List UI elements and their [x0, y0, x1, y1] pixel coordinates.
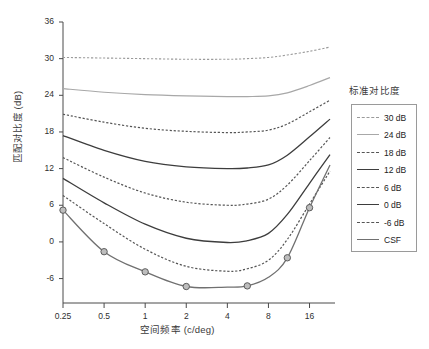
series-marker: [101, 248, 107, 254]
legend-item[interactable]: 0 dB: [352, 197, 418, 214]
x-tick-label: 4: [212, 311, 242, 321]
series-marker: [244, 283, 250, 289]
x-tick-label: 16: [295, 311, 325, 321]
legend-item[interactable]: 24 dB: [352, 127, 418, 144]
y-tick-label: 30: [30, 53, 54, 63]
legend-item[interactable]: 12 dB: [352, 162, 418, 179]
series-line: [63, 119, 330, 169]
series-line: [63, 137, 330, 205]
x-tick-label: 2: [171, 311, 201, 321]
series-line: [63, 100, 330, 132]
x-tick-label: 0.25: [48, 311, 78, 321]
y-tick-label: 24: [30, 89, 54, 99]
legend-label: 6 dB: [384, 183, 402, 193]
series-line: [63, 78, 330, 97]
legend-swatch: [357, 200, 379, 210]
series-marker: [284, 255, 290, 261]
y-tick-label: 6: [30, 199, 54, 209]
legend-item[interactable]: CSF: [352, 232, 418, 249]
legend-swatch: [357, 165, 379, 175]
legend-label: 12 dB: [384, 165, 406, 175]
legend-swatch: [357, 218, 379, 228]
series-marker: [60, 207, 66, 213]
legend-swatch: [357, 130, 379, 140]
x-tick-label: 8: [253, 311, 283, 321]
legend-label: 18 dB: [384, 148, 406, 158]
chart-figure: 匹配对比度 (dB) 空间频率 (c/deg) 363024181260-6 0…: [0, 0, 429, 349]
legend-item[interactable]: 6 dB: [352, 179, 418, 196]
legend-swatch: [357, 113, 379, 123]
legend-swatch: [357, 148, 379, 158]
y-tick-label: 18: [30, 126, 54, 136]
legend-swatch: [357, 183, 379, 193]
y-axis-label: 匹配对比度 (dB): [10, 62, 24, 192]
series-marker: [183, 283, 189, 289]
y-tick-label: 12: [30, 163, 54, 173]
y-tick-label: 0: [30, 236, 54, 246]
y-tick-label: 36: [30, 16, 54, 26]
legend-label: 24 dB: [384, 130, 406, 140]
legend-box: 30 dB24 dB18 dB12 dB6 dB0 dB-6 dBCSF: [351, 104, 417, 252]
series-line: [63, 47, 330, 59]
legend-label: 30 dB: [384, 113, 406, 123]
x-axis-label: 空间频率 (c/deg): [140, 322, 215, 336]
x-tick-label: 1: [130, 311, 160, 321]
legend-swatch: [357, 235, 379, 245]
series-marker: [306, 205, 312, 211]
legend-label: CSF: [384, 235, 401, 245]
legend-label: 0 dB: [384, 200, 402, 210]
x-tick-label: 0.5: [89, 311, 119, 321]
legend-title: 标准对比度: [349, 83, 400, 97]
legend-label: -6 dB: [384, 218, 404, 228]
legend-item[interactable]: 30 dB: [352, 109, 418, 126]
y-tick-label: -6: [30, 273, 54, 283]
series-marker: [142, 269, 148, 275]
legend-item[interactable]: 18 dB: [352, 144, 418, 161]
legend-item[interactable]: -6 dB: [352, 214, 418, 231]
